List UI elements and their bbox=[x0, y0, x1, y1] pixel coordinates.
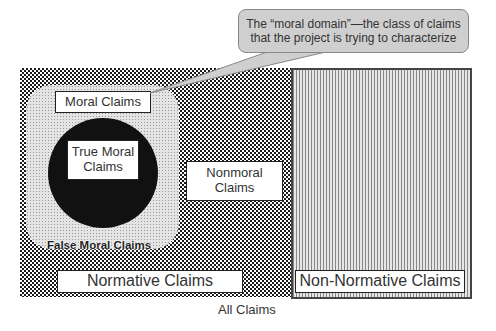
all-claims-caption: All Claims bbox=[218, 302, 276, 317]
true-moral-line2: Claims bbox=[83, 160, 123, 175]
non-normative-claims-label: Non-Normative Claims bbox=[295, 270, 465, 293]
callout-line1: The “moral domain”—the class of claims bbox=[239, 17, 468, 31]
false-moral-claims-label: False Moral Claims bbox=[47, 239, 151, 251]
non-normative-claims-text: Non-Normative Claims bbox=[300, 272, 461, 290]
moral-claims-label: Moral Claims bbox=[55, 91, 151, 113]
moral-claims-text: Moral Claims bbox=[65, 95, 141, 110]
normative-claims-text: Normative Claims bbox=[87, 272, 213, 290]
callout-line2: that the project is trying to characteri… bbox=[239, 31, 468, 45]
normative-claims-label: Normative Claims bbox=[57, 270, 243, 293]
nonmoral-claims-label: Nonmoral Claims bbox=[186, 161, 283, 201]
nonmoral-line1: Nonmoral bbox=[206, 166, 262, 181]
nonmoral-line2: Claims bbox=[215, 181, 255, 196]
true-moral-claims-label: True Moral Claims bbox=[67, 140, 139, 180]
true-moral-line1: True Moral bbox=[72, 145, 134, 160]
callout-bubble: The “moral domain”—the class of claims t… bbox=[238, 9, 469, 53]
non-normative-region bbox=[291, 68, 472, 299]
